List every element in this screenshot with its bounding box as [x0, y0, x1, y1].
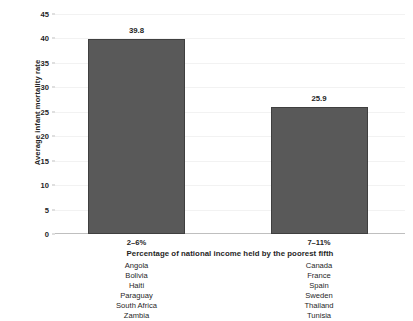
- country-list-2: CanadaFranceSpainSwedenThailandTunisia: [259, 261, 379, 320]
- y-axis-tick-label: 40: [15, 34, 55, 43]
- country-item: Thailand: [259, 301, 379, 311]
- plot-area: 051015202530354045: [55, 14, 405, 234]
- y-axis-tick-label: 25: [15, 107, 55, 116]
- country-item: Haiti: [77, 281, 197, 291]
- bar-value-label: 39.8: [107, 26, 167, 35]
- bar-1[interactable]: [88, 39, 185, 234]
- country-item: South Africa: [77, 301, 197, 311]
- country-item: Tunisia: [259, 311, 379, 321]
- y-axis-tick-label: 10: [15, 181, 55, 190]
- infant-mortality-bar-chart: Average infant mortality rate 0510152025…: [0, 0, 413, 321]
- y-axis-tick-label: 20: [15, 132, 55, 141]
- y-axis-tick-label: 35: [15, 58, 55, 67]
- country-list-1: AngolaBoliviaHaitiParaguaySouth AfricaZa…: [77, 261, 197, 320]
- country-item: Bolivia: [77, 271, 197, 281]
- country-item: Angola: [77, 261, 197, 271]
- y-axis-tick-label: 0: [15, 230, 55, 239]
- country-item: Zambia: [77, 311, 197, 321]
- bar-2[interactable]: [271, 107, 368, 234]
- x-axis-title: Percentage of national income held by th…: [55, 249, 405, 258]
- country-item: Paraguay: [77, 291, 197, 301]
- y-axis-tick-label: 30: [15, 83, 55, 92]
- y-axis-tick-label: 45: [15, 10, 55, 19]
- x-axis-category-label: 2–6%: [97, 238, 177, 247]
- gridline: [55, 14, 405, 15]
- y-axis-tick-label: 5: [15, 205, 55, 214]
- x-axis-category-label: 7–11%: [279, 238, 359, 247]
- bar-value-label: 25.9: [289, 94, 349, 103]
- y-axis-tick-label: 15: [15, 156, 55, 165]
- country-item: France: [259, 271, 379, 281]
- country-item: Spain: [259, 281, 379, 291]
- country-item: Canada: [259, 261, 379, 271]
- country-item: Sweden: [259, 291, 379, 301]
